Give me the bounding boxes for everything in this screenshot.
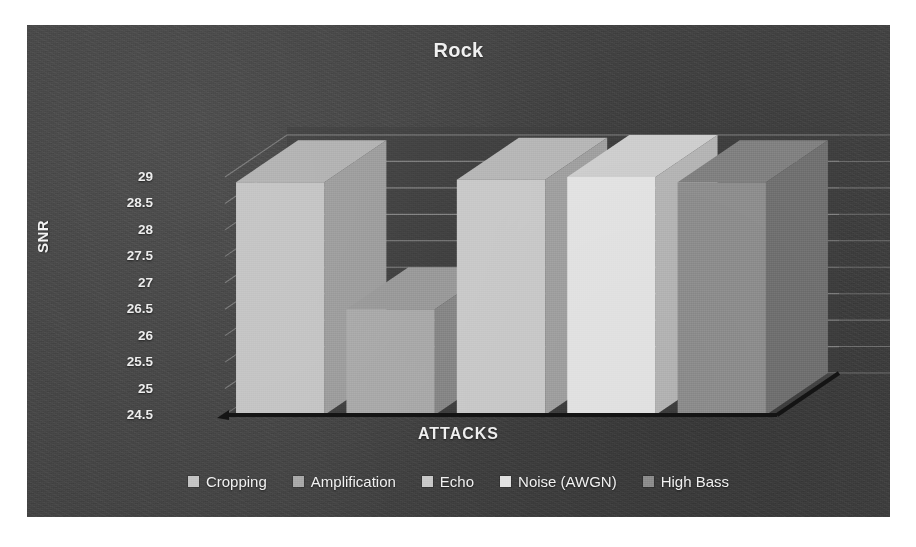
bars-group — [236, 135, 828, 415]
y-axis-ticks: 2928.52827.52726.52625.52524.5 — [75, 143, 153, 433]
legend-swatch-icon — [422, 476, 433, 487]
legend-swatch-icon — [293, 476, 304, 487]
y-tick-label: 27.5 — [75, 249, 153, 263]
y-tick-label: 28.5 — [75, 196, 153, 210]
y-tick-label: 27 — [75, 276, 153, 290]
legend-label: High Bass — [661, 473, 729, 490]
legend-swatch-icon — [188, 476, 199, 487]
legend-swatch-icon — [500, 476, 511, 487]
legend-label: Noise (AWGN) — [518, 473, 617, 490]
legend-label: Cropping — [206, 473, 267, 490]
y-tick-label: 26.5 — [75, 302, 153, 316]
legend-item[interactable]: Cropping — [188, 473, 267, 490]
legend-item[interactable]: Echo — [422, 473, 474, 490]
legend-label: Echo — [440, 473, 474, 490]
y-axis-label: SNR — [34, 220, 51, 253]
y-tick-label: 29 — [75, 170, 153, 184]
legend-item[interactable]: Noise (AWGN) — [500, 473, 617, 490]
chart-legend: CroppingAmplificationEchoNoise (AWGN)Hig… — [27, 473, 890, 490]
x-axis-label: ATTACKS — [27, 425, 890, 443]
legend-swatch-icon — [643, 476, 654, 487]
y-tick-label: 24.5 — [75, 408, 153, 422]
y-tick-label: 25 — [75, 382, 153, 396]
y-tick-label: 25.5 — [75, 355, 153, 369]
legend-label: Amplification — [311, 473, 396, 490]
legend-item[interactable]: High Bass — [643, 473, 729, 490]
y-tick-label: 28 — [75, 223, 153, 237]
bar-high-bass — [678, 140, 828, 415]
plot-svg — [27, 25, 890, 465]
chart-panel: Rock SNR 2928.52827.52726.52625.52524.5 … — [27, 25, 890, 517]
chart-title: Rock — [27, 39, 890, 62]
plot-area — [27, 25, 890, 465]
page-root: Rock SNR 2928.52827.52726.52625.52524.5 … — [0, 0, 916, 547]
legend-item[interactable]: Amplification — [293, 473, 396, 490]
y-tick-label: 26 — [75, 329, 153, 343]
